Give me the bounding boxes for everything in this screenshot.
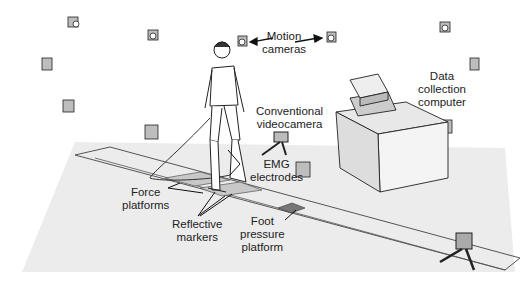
label-line: Foot <box>240 215 285 228</box>
label-emg-electrodes: EMG electrodes <box>250 158 303 184</box>
label-line: platforms <box>122 199 169 212</box>
camera-icon <box>42 58 52 70</box>
label-force-platforms: Force platforms <box>122 186 169 212</box>
label-line: pressure <box>240 228 285 241</box>
label-data-collection-computer: Data collection computer <box>418 70 466 109</box>
camera-icon <box>470 58 479 70</box>
label-motion-cameras: Motion cameras <box>262 30 306 56</box>
label-line: platform <box>240 241 285 254</box>
camera-icon <box>145 125 158 139</box>
label-line: Data <box>418 70 466 83</box>
label-line: Conventional <box>256 105 323 118</box>
label-line: Force <box>122 186 169 199</box>
label-conventional-videocamera: Conventional videocamera <box>256 105 323 131</box>
label-line: Reflective <box>172 218 223 231</box>
camera-icon <box>63 100 74 112</box>
label-line: Motion <box>262 30 306 43</box>
label-reflective-markers: Reflective markers <box>172 218 223 244</box>
label-line: EMG <box>250 158 303 171</box>
label-line: cameras <box>262 43 306 56</box>
label-line: electrodes <box>250 171 303 184</box>
label-line: videocamera <box>256 118 323 131</box>
label-line: computer <box>418 96 466 109</box>
label-line: markers <box>172 231 223 244</box>
label-foot-pressure-platform: Foot pressure platform <box>240 215 285 254</box>
label-line: collection <box>418 83 466 96</box>
